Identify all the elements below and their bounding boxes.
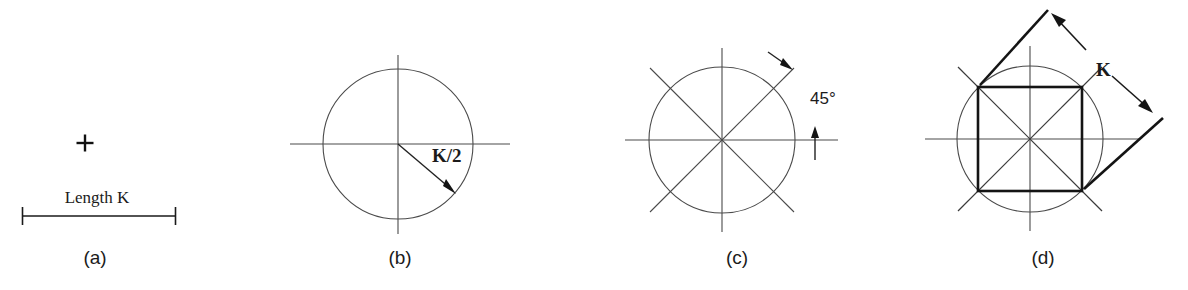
extension-line-upper-d bbox=[980, 10, 1048, 85]
radius-label-b: K/2 bbox=[432, 145, 462, 166]
extension-line-lower-d bbox=[1084, 118, 1163, 189]
caption-d: (d) bbox=[1031, 247, 1054, 268]
dimension-arrow-upper-head-d bbox=[1051, 13, 1066, 27]
figure-root: Length K (a) K/2 (b) bbox=[0, 0, 1188, 290]
radius-arrow-head bbox=[443, 179, 456, 194]
angle-arrow-bottom-head bbox=[811, 126, 819, 138]
figure-canvas: Length K (a) K/2 (b) bbox=[0, 0, 1188, 290]
angle-arrow-top-head bbox=[780, 58, 793, 70]
angle-label-c: 45° bbox=[810, 89, 836, 108]
caption-c: (c) bbox=[726, 247, 748, 268]
angle-annotation-c: 45° bbox=[768, 52, 836, 160]
panel-c: 45° (c) bbox=[625, 48, 838, 268]
dimension-label-d: K bbox=[1096, 59, 1111, 80]
caption-a: (a) bbox=[83, 247, 106, 268]
length-dimension-line bbox=[22, 207, 176, 225]
panel-a: Length K (a) bbox=[22, 135, 176, 269]
caption-b: (b) bbox=[388, 247, 411, 268]
panel-d: K (d) bbox=[925, 10, 1163, 268]
length-label: Length K bbox=[65, 188, 130, 207]
plus-mark-icon bbox=[77, 135, 94, 152]
panel-b: K/2 (b) bbox=[290, 55, 510, 268]
